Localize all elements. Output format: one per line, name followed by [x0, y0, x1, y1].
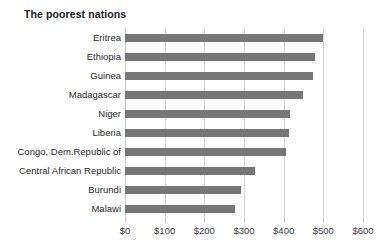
x-tick-label: $600 [352, 225, 373, 236]
bar-row: Malawi [125, 199, 363, 218]
tick-mark-100 [165, 218, 166, 223]
category-label: Congo, Dem.Republic of [18, 147, 122, 157]
tick-mark-300 [244, 218, 245, 223]
gridline-600 [363, 28, 364, 218]
bar-chart: The poorest nations EritreaEthiopiaGuine… [0, 0, 387, 252]
category-label: Central African Republic [19, 166, 121, 176]
tick-mark-500 [323, 218, 324, 223]
category-label: Niger [98, 109, 121, 119]
bar [125, 110, 290, 118]
bar [125, 186, 241, 194]
bar-row: Guinea [125, 66, 363, 85]
bar [125, 53, 315, 61]
bar-row: Eritrea [125, 28, 363, 47]
bar-row: Liberia [125, 123, 363, 142]
bar [125, 72, 313, 80]
bar [125, 34, 323, 42]
category-label: Eritrea [93, 33, 121, 43]
plot-area: EritreaEthiopiaGuineaMadagascarNigerLibe… [125, 28, 363, 218]
x-tick-label: $100 [154, 225, 175, 236]
bar-row: Congo, Dem.Republic of [125, 142, 363, 161]
bar [125, 205, 235, 213]
category-label: Malawi [91, 204, 121, 214]
bar [125, 91, 303, 99]
chart-title: The poorest nations [24, 8, 126, 20]
x-tick-label: $200 [194, 225, 215, 236]
category-label: Guinea [90, 71, 121, 81]
category-label: Liberia [92, 128, 121, 138]
bar-row: Central African Republic [125, 161, 363, 180]
category-label: Burundi [88, 185, 121, 195]
x-tick-label: $300 [233, 225, 254, 236]
tick-mark-200 [204, 218, 205, 223]
bar [125, 129, 289, 137]
bar-row: Niger [125, 104, 363, 123]
category-label: Madagascar [69, 90, 121, 100]
category-label: Ethiopia [87, 52, 121, 62]
tick-mark-0 [125, 218, 126, 223]
bar [125, 148, 286, 156]
tick-mark-600 [363, 218, 364, 223]
x-tick-label: $500 [313, 225, 334, 236]
x-tick-label: $400 [273, 225, 294, 236]
bar [125, 167, 255, 175]
x-tick-label: $0 [120, 225, 131, 236]
bar-row: Ethiopia [125, 47, 363, 66]
bar-row: Madagascar [125, 85, 363, 104]
bar-row: Burundi [125, 180, 363, 199]
tick-mark-400 [284, 218, 285, 223]
